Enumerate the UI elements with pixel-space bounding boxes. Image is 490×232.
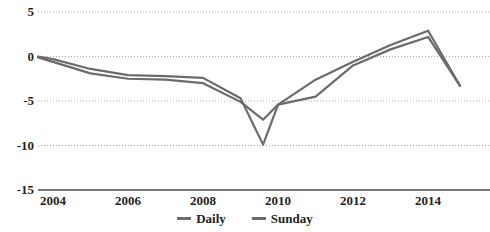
- legend-line-swatch-icon: [177, 217, 191, 220]
- y-tick-label-5: 5: [0, 5, 34, 18]
- x-tick-label-2006: 2006: [98, 194, 158, 207]
- series-line-daily: [38, 37, 460, 120]
- line-chart: 50-5-10-15 200420062008201020122014 Dail…: [0, 0, 490, 232]
- y-tick-label--10: -10: [0, 139, 34, 152]
- legend-line-swatch-icon: [252, 217, 266, 220]
- y-tick-label-0: 0: [0, 50, 34, 63]
- y-tick-label--5: -5: [0, 94, 34, 107]
- series-lines: [38, 31, 460, 145]
- chart-legend: DailySunday: [0, 212, 490, 225]
- legend-entry-sunday[interactable]: Sunday: [252, 212, 313, 225]
- x-tick-label-2012: 2012: [323, 194, 383, 207]
- x-tick-label-2008: 2008: [173, 194, 233, 207]
- legend-entry-daily[interactable]: Daily: [177, 212, 226, 225]
- x-tick-label-2004: 2004: [23, 194, 83, 207]
- legend-label: Sunday: [271, 212, 313, 225]
- x-tick-label-2010: 2010: [248, 194, 308, 207]
- x-tick-label-2014: 2014: [398, 194, 458, 207]
- legend-label: Daily: [196, 212, 226, 225]
